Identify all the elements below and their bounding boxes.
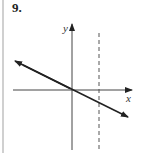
x-axis-label: x — [125, 92, 131, 104]
y-axis-label: y — [62, 22, 68, 34]
graph: y x — [0, 0, 141, 153]
graph-line-start — [15, 61, 70, 89]
